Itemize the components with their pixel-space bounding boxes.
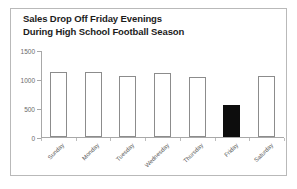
y-axis-tick — [37, 51, 41, 52]
chart-title: Sales Drop Off Friday Evenings During Hi… — [23, 13, 273, 38]
y-axis-tick-label: 0 — [31, 135, 35, 142]
x-axis-labels: SundayMondayTuesdayWednesdayThursdayFrid… — [41, 139, 284, 179]
bar-saturday[interactable] — [258, 76, 275, 137]
bar-wednesday[interactable] — [154, 73, 171, 137]
y-axis-tick-label: 1500 — [21, 48, 35, 55]
x-axis-tick — [284, 138, 285, 141]
chart-title-line-2: During High School Football Season — [23, 26, 273, 39]
y-axis-tick-label: 500 — [24, 106, 35, 113]
bar-friday[interactable] — [223, 105, 240, 137]
plot-area: 050010001500 — [41, 51, 284, 138]
y-axis-tick-label: 1000 — [21, 77, 35, 84]
bar-tuesday[interactable] — [119, 76, 136, 137]
chart-title-line-1: Sales Drop Off Friday Evenings — [23, 13, 273, 26]
bar-sunday[interactable] — [50, 72, 67, 137]
chart-frame: Sales Drop Off Friday Evenings During Hi… — [10, 8, 287, 176]
x-axis-label-saturday: Saturday — [231, 142, 274, 185]
y-axis-line — [41, 51, 42, 138]
x-axis-line — [41, 137, 284, 138]
y-axis-tick — [37, 80, 41, 81]
bar-monday[interactable] — [85, 72, 102, 137]
y-axis-tick — [37, 109, 41, 110]
bar-thursday[interactable] — [189, 77, 206, 137]
